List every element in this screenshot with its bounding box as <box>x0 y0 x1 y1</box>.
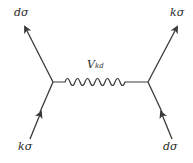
interaction-wavy-line <box>53 79 148 86</box>
incoming-arrow-bottom-left <box>30 112 41 139</box>
label-interaction-main: V <box>87 58 95 71</box>
label-top-right: kσ <box>170 6 184 19</box>
label-interaction-subscript: kd <box>95 62 104 70</box>
label-bottom-right: dσ <box>163 140 178 153</box>
incoming-arrow-bottom-right <box>161 112 172 139</box>
label-interaction: Vkd <box>87 58 104 71</box>
feynman-diagram: dσ kσ kσ dσ Vkd <box>0 0 193 163</box>
label-top-left: dσ <box>14 6 29 19</box>
label-bottom-left: kσ <box>18 140 32 153</box>
outgoing-line-top-right <box>148 27 177 82</box>
outgoing-line-top-left <box>25 27 53 82</box>
diagram-lines <box>0 0 193 163</box>
